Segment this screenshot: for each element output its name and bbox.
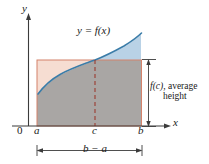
tick-label-a: a — [34, 125, 40, 137]
width-measure-arrow-right — [136, 148, 143, 152]
x-axis-arrowhead — [164, 124, 171, 129]
tick-label-b: b — [138, 125, 144, 137]
origin-label: 0 — [17, 125, 23, 137]
x-axis-label: x — [173, 117, 178, 129]
average-height-label: f(c), average height — [150, 82, 197, 102]
width-label: b − a — [83, 143, 107, 155]
average-height-label-line2: height — [163, 92, 197, 102]
area-under-curve-above-rectangle — [37, 34, 141, 60]
tick-label-c: c — [92, 125, 97, 137]
y-axis-label: y — [22, 3, 27, 15]
figure-container: y x 0 a c b y = f(x) b − a f(c), average… — [0, 0, 209, 164]
average-height-label-fc: f(c) — [150, 81, 163, 91]
curve-label: y = f(x) — [77, 25, 110, 37]
average-height-label-rest: , average — [163, 81, 197, 91]
width-measure-arrow-left — [37, 148, 44, 152]
